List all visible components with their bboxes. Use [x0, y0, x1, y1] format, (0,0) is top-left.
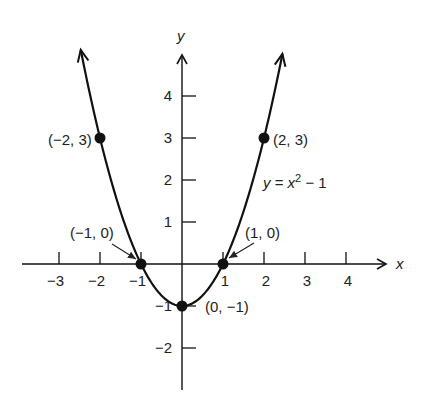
y-tick-label: −2 — [155, 339, 172, 356]
point-label-0-neg1: (0, −1) — [205, 298, 249, 315]
equation-label: y = x2 − 1 — [262, 172, 327, 191]
data-point — [95, 133, 106, 144]
x-tick-label: 4 — [344, 272, 352, 289]
x-axis-label: x — [395, 255, 404, 272]
data-point — [136, 259, 147, 270]
x-tick-label: 1 — [221, 272, 229, 289]
parabola-chart: −3−2−11234 4321−1−2 x y (−2, 3) (2, 3) (… — [0, 0, 429, 412]
data-point — [177, 301, 188, 312]
equation-rhs: − 1 — [301, 174, 326, 191]
x-axis-ticks: −3−2−11234 — [47, 252, 352, 289]
y-tick-label: 2 — [164, 171, 172, 188]
y-tick-label: 3 — [164, 129, 172, 146]
data-point — [218, 259, 229, 270]
y-axis-ticks: 4321−1−2 — [155, 87, 196, 356]
y-tick-label: −1 — [155, 297, 172, 314]
equation-eq: = — [271, 174, 288, 191]
pointer-arrow-1-0 — [229, 243, 254, 258]
x-tick-label: −2 — [88, 272, 105, 289]
y-tick-label: 4 — [164, 87, 172, 104]
x-tick-label: 3 — [303, 272, 311, 289]
point-label-neg2-3: (−2, 3) — [48, 131, 92, 148]
point-label-1-0: (1, 0) — [245, 224, 280, 241]
y-tick-label: 1 — [164, 213, 172, 230]
point-label-neg1-0: (−1, 0) — [70, 224, 114, 241]
x-tick-label: −1 — [129, 272, 146, 289]
x-tick-label: −3 — [47, 272, 64, 289]
data-point — [259, 133, 270, 144]
x-tick-label: 2 — [262, 272, 270, 289]
point-label-2-3: (2, 3) — [273, 131, 308, 148]
y-axis-label: y — [176, 27, 186, 44]
